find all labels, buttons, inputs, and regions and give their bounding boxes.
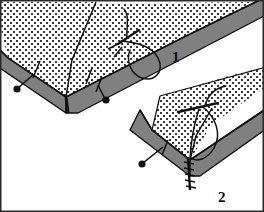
pin-1-head [13, 85, 20, 92]
figure-1-corner-seam [66, 97, 68, 113]
pin-2-head [102, 96, 109, 103]
figure-1-label: 1 [172, 49, 180, 65]
pin-3-head [138, 160, 145, 167]
illustration-panel: 1 [0, 0, 264, 212]
figure-2-label: 2 [218, 189, 226, 205]
sewing-diagram: 1 [0, 0, 264, 212]
